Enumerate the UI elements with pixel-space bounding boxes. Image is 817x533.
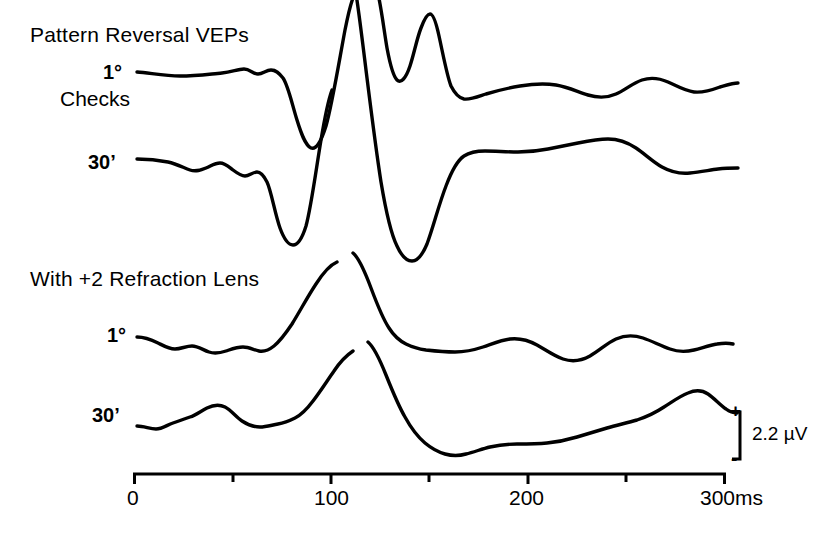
group-title-refraction-lens: With +2 Refraction Lens — [30, 268, 259, 289]
scale-bar-label: 2.2 µV — [752, 424, 807, 443]
axis-tick-label-0: 0 — [127, 487, 139, 508]
axis-tick-label-200: 200 — [509, 487, 544, 508]
vep-waveform-figure: Pattern Reversal VEPs 1° Checks 30’ With… — [0, 0, 817, 533]
trace-label-pattern-30min: 30’ — [88, 152, 116, 172]
axis-tick-label-100: 100 — [314, 487, 349, 508]
scale-bar-positive-mark: + — [730, 401, 741, 420]
trace-label-pattern-1deg: 1° — [103, 62, 122, 82]
group-title-pattern-reversal: Pattern Reversal VEPs — [30, 24, 249, 45]
scale-bar-negative-mark: - — [731, 449, 737, 468]
trace-refraction-30min — [137, 342, 737, 456]
axis-tick-label-300ms: 300ms — [700, 487, 763, 508]
trace-label-refraction-30min: 30’ — [92, 405, 120, 425]
time-axis — [133, 474, 726, 484]
trace-label-refraction-1deg: 1° — [107, 325, 126, 345]
trace-label-pattern-checks: Checks — [60, 88, 130, 109]
